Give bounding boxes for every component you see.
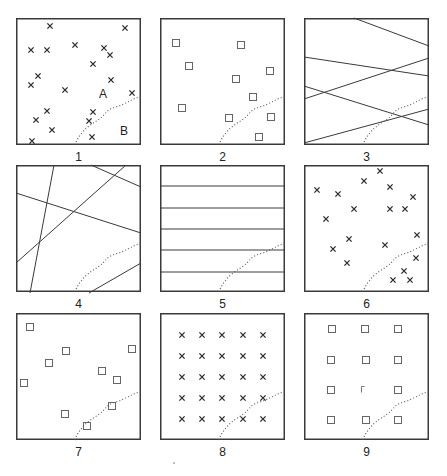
square-mark-icon [114, 377, 121, 384]
cross-mark-icon [199, 416, 204, 421]
cross-mark-icon [129, 90, 134, 95]
square-mark-icon [256, 134, 263, 141]
panel-2: 2 [160, 18, 285, 165]
cross-mark-icon [33, 117, 38, 122]
panel-label: 3 [304, 150, 429, 164]
habitat-boundary [75, 392, 141, 440]
region-label-b: B [120, 124, 128, 138]
cross-mark-icon [108, 77, 113, 82]
cross-mark-icon [179, 332, 184, 337]
cross-mark-icon [62, 87, 67, 92]
square-mark-icon [329, 326, 336, 333]
cross-mark-icon [240, 374, 245, 379]
panel-1-plot: AB [16, 18, 141, 145]
square-mark-icon [21, 380, 28, 387]
panel-label: 7 [16, 445, 141, 459]
stray-dot [173, 462, 175, 464]
panel-border [161, 19, 285, 145]
transect-line [16, 193, 141, 233]
square-mark-icon [395, 417, 402, 424]
cross-mark-icon [240, 416, 245, 421]
panel-label: 8 [160, 445, 285, 459]
transect-line [30, 165, 54, 293]
cross-mark-icon [346, 236, 351, 241]
panel-border [305, 166, 429, 292]
cross-mark-icon [199, 353, 204, 358]
square-mark-icon [328, 357, 335, 364]
cross-mark-icon [179, 374, 184, 379]
cross-mark-icon [179, 416, 184, 421]
cross-mark-icon [29, 138, 34, 143]
cross-mark-icon [402, 206, 407, 211]
cross-mark-icon [260, 395, 265, 400]
cross-mark-icon [219, 374, 224, 379]
panel-5-plot [160, 165, 285, 292]
cross-mark-icon [199, 332, 204, 337]
cross-mark-icon [387, 184, 392, 189]
cross-mark-icon [390, 277, 395, 282]
square-mark-icon [179, 105, 186, 112]
cross-mark-icon [260, 332, 265, 337]
panel-8-plot [160, 313, 285, 440]
cross-mark-icon [47, 23, 52, 28]
cross-mark-icon [377, 168, 382, 173]
cross-mark-icon [28, 47, 33, 52]
square-mark-icon [395, 326, 402, 333]
cross-mark-icon [240, 395, 245, 400]
panel-border [17, 314, 141, 440]
habitat-boundary [219, 244, 285, 292]
cross-mark-icon [260, 416, 265, 421]
panel-1: AB1 [16, 18, 141, 165]
region-label-a: A [99, 87, 107, 101]
cross-mark-icon [414, 232, 419, 237]
square-mark-icon [109, 403, 116, 410]
square-mark-icon [226, 115, 233, 122]
panel-3-plot [304, 18, 429, 145]
cross-mark-icon [407, 277, 412, 282]
square-mark-icon [63, 348, 70, 355]
cross-mark-icon [323, 216, 328, 221]
cross-mark-icon [219, 353, 224, 358]
transect-line [16, 165, 126, 263]
panel-7: 7 [16, 313, 141, 460]
cross-mark-icon [314, 187, 319, 192]
square-mark-icon [363, 417, 370, 424]
panel-9: 9 [304, 313, 429, 460]
transect-line [91, 165, 141, 187]
panel-label: 9 [304, 445, 429, 459]
cross-mark-icon [351, 206, 356, 211]
square-mark-icon [238, 42, 245, 49]
panel-5: 5 [160, 165, 285, 312]
habitat-boundary [219, 97, 285, 145]
panel-border [305, 19, 429, 145]
square-mark-icon [186, 63, 193, 70]
cross-mark-icon [335, 191, 340, 196]
square-mark-icon [268, 114, 275, 121]
cross-mark-icon [260, 353, 265, 358]
cross-mark-icon [260, 374, 265, 379]
square-mark-icon [173, 40, 180, 47]
square-mark-icon [250, 94, 257, 101]
habitat-boundary [75, 97, 141, 145]
panel-9-plot [304, 313, 429, 440]
square-mark-icon [99, 368, 106, 375]
square-mark-icon [129, 346, 136, 353]
cross-mark-icon [101, 45, 106, 50]
cross-mark-icon [179, 353, 184, 358]
cross-mark-icon [44, 47, 49, 52]
cross-mark-icon [330, 246, 335, 251]
panel-3: 3 [304, 18, 429, 165]
cross-mark-icon [122, 25, 127, 30]
square-mark-icon [27, 324, 34, 331]
square-mark-icon [328, 387, 335, 394]
cross-mark-icon [199, 374, 204, 379]
cross-mark-icon [199, 395, 204, 400]
panel-label: 1 [16, 150, 141, 164]
panel-label: 4 [16, 297, 141, 311]
cross-mark-icon [90, 109, 95, 114]
panel-2-plot [160, 18, 285, 145]
transect-line [304, 86, 429, 125]
square-mark-icon [362, 326, 369, 333]
transect-line [354, 18, 429, 46]
cross-mark-icon [86, 118, 91, 123]
